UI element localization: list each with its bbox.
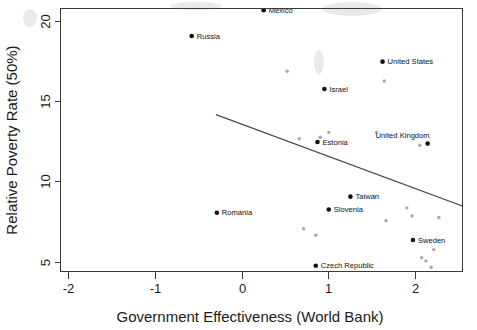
point-label-romania: Romania [222, 208, 253, 217]
point-label-taiwan: Taiwan [355, 192, 379, 201]
point-label-mexico: Mexico [269, 6, 293, 15]
data-point-czech-republic [313, 263, 318, 268]
x-tick-label: -2 [63, 281, 75, 296]
x-tick-label: 0 [239, 281, 246, 296]
x-axis-ticks [69, 272, 416, 279]
data-point-sweden [411, 238, 416, 243]
point-label-estonia: Estonia [322, 138, 348, 147]
data-point-taiwan [348, 194, 353, 199]
data-point [314, 233, 317, 236]
data-point-romania [215, 210, 220, 215]
plot-frame [61, 9, 463, 272]
y-tick-label: 15 [38, 94, 53, 108]
data-point [424, 259, 427, 262]
regression-trend-line [216, 115, 463, 207]
data-point [418, 144, 421, 147]
x-axis-title: Government Effectiveness (World Bank) [116, 308, 383, 325]
data-point [327, 131, 330, 134]
point-label-slovenia: Slovenia [334, 205, 364, 214]
point-label-united-kingdom: United Kingdom [376, 131, 430, 140]
data-point [420, 256, 423, 259]
x-axis-tick-labels: -2 -1 0 1 2 [63, 281, 419, 296]
y-tick-label: 20 [38, 14, 53, 28]
data-point-united-kingdom [425, 141, 430, 146]
y-tick-label: 10 [38, 174, 53, 188]
data-point [285, 70, 288, 73]
point-label-czech-republic: Czech Republic [321, 261, 374, 270]
y-axis-ticks [55, 22, 61, 263]
data-point-estonia [315, 140, 320, 145]
data-point [429, 266, 432, 269]
point-label-united-states: United States [388, 57, 434, 66]
data-point [298, 137, 301, 140]
x-tick-label: -1 [150, 281, 162, 296]
plot-canvas: 20 15 10 5 -2 -1 0 1 2 Government Effect… [0, 0, 477, 330]
y-tick-label: 5 [38, 259, 53, 266]
data-point-israel [322, 87, 327, 92]
scatter-plot-figure: 20 15 10 5 -2 -1 0 1 2 Government Effect… [0, 0, 477, 330]
data-point [383, 79, 386, 82]
y-axis-tick-labels: 20 15 10 5 [38, 14, 53, 266]
data-point [302, 227, 305, 230]
data-point [410, 214, 413, 217]
point-label-sweden: Sweden [418, 236, 445, 245]
point-label-russia: Russia [197, 32, 221, 41]
data-point-russia [189, 34, 194, 39]
data-point [384, 219, 387, 222]
data-point [405, 206, 408, 209]
x-tick-label: 1 [325, 281, 332, 296]
data-point [432, 248, 435, 251]
data-point-united-states [380, 59, 385, 64]
point-label-israel: Israel [329, 85, 348, 94]
data-point [437, 216, 440, 219]
x-tick-label: 2 [412, 281, 419, 296]
y-axis-title: Relative Poverty Rate (50%) [3, 45, 20, 234]
data-point [318, 135, 321, 138]
data-point-slovenia [326, 207, 331, 212]
